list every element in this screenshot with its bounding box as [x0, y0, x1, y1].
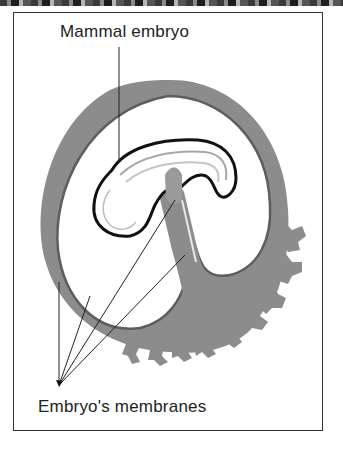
label-embryo-membranes: Embryo's membranes: [38, 397, 206, 417]
label-mammal-embryo: Mammal embryo: [60, 22, 189, 42]
leader-arrowhead: [56, 380, 63, 387]
embryo-diagram: [0, 0, 343, 451]
